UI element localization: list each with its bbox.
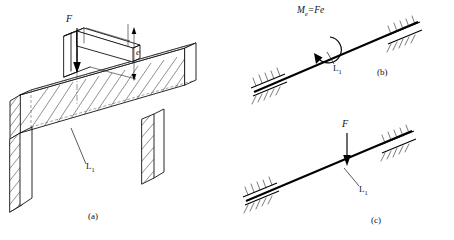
- moment-label-b-rest: =Fe: [308, 5, 324, 15]
- beam-left-end-face: [10, 95, 20, 139]
- figure-canvas: [0, 0, 454, 240]
- panel-a-drawing: [4, 24, 196, 224]
- engineering-figure: F e L1 (a) Me=Fe L1 (b) F L1 (c): [0, 0, 454, 240]
- support-right-b: [386, 16, 422, 52]
- right-column: [142, 109, 164, 184]
- beam-label-a: L1: [86, 162, 95, 173]
- beam-label-c: L1: [359, 185, 368, 196]
- beam-label-leader-a: [71, 128, 86, 164]
- force-label-a: F: [66, 14, 72, 24]
- force-arrow-c: [343, 133, 351, 166]
- support-right-c: [380, 125, 416, 161]
- beam-front-face: [20, 48, 185, 133]
- beam-right-end-face: [185, 43, 196, 85]
- moment-label-b-main: M: [297, 5, 305, 15]
- force-label-c: F: [342, 119, 348, 129]
- beam-label-c-sub: 1: [365, 189, 368, 196]
- caption-a: (a): [88, 212, 98, 221]
- panel-b-drawing: [251, 16, 422, 104]
- caption-c: (c): [371, 216, 381, 225]
- beam-label-b: L1: [333, 64, 342, 75]
- eccentricity-label-a: e: [136, 48, 140, 57]
- beam-label-leader-c: [344, 168, 359, 186]
- moment-label-b: Me=Fe: [297, 6, 324, 17]
- beam-label-b-sub: 1: [339, 68, 342, 75]
- panel-c-drawing: [243, 125, 416, 213]
- beam-label-a-sub: 1: [92, 166, 95, 173]
- caption-b: (b): [377, 68, 388, 77]
